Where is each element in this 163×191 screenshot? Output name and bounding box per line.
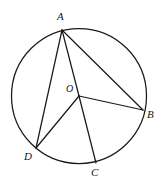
geometry-figure: A B C D O: [0, 0, 163, 191]
radius-oc: [79, 96, 96, 163]
point-label-b: B: [147, 109, 154, 120]
point-label-d: D: [24, 151, 32, 162]
chord-ab: [62, 30, 143, 110]
point-label-a: A: [57, 11, 64, 22]
geometry-canvas: [0, 0, 163, 191]
radius-od: [36, 96, 79, 148]
chord-ad: [36, 30, 62, 148]
point-label-c: C: [91, 167, 98, 178]
point-label-o: O: [66, 83, 73, 94]
radius-ob: [79, 96, 143, 110]
